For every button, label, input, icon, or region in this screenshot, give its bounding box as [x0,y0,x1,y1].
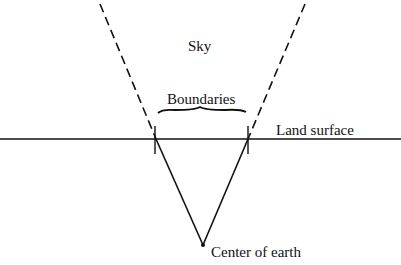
sky-label: Sky [188,38,212,54]
right-radius-line [203,139,248,245]
left-dashed-boundary [100,4,156,139]
diagram-canvas: Sky Boundaries Land surface Center of ea… [0,0,401,265]
center-of-earth-label: Center of earth [211,244,301,260]
right-dashed-boundary [248,4,305,139]
center-of-earth-point [201,243,205,247]
boundaries-label: Boundaries [167,91,235,107]
left-radius-line [156,139,203,245]
land-surface-label: Land surface [276,122,354,138]
boundaries-brace [158,107,246,113]
